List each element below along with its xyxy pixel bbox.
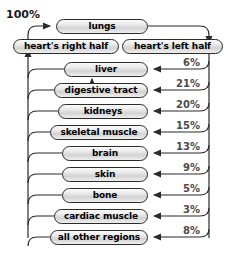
bone-return xyxy=(28,195,62,204)
percent-liver: 6% xyxy=(140,57,200,68)
brain-return xyxy=(28,153,62,162)
node-all-other-regions[interactable]: all other regions xyxy=(50,230,148,245)
digestive-return xyxy=(28,90,54,99)
node-lungs[interactable]: lungs xyxy=(56,19,148,34)
node-skin[interactable]: skin xyxy=(62,167,148,182)
node-kidneys[interactable]: kidneys xyxy=(58,104,148,119)
node-bone[interactable]: bone xyxy=(62,188,148,203)
node-skeletal-muscle[interactable]: skeletal muscle xyxy=(50,125,148,140)
blood-circulation-diagram: 100% lungs heart's right half heart's le… xyxy=(0,0,236,259)
node-cardiac-muscle[interactable]: cardiac muscle xyxy=(54,209,148,224)
kidneys-return xyxy=(28,111,58,120)
percent-all-other-regions: 8% xyxy=(140,225,200,236)
percent-kidneys: 20% xyxy=(140,99,200,110)
percent-cardiac-muscle: 3% xyxy=(140,204,200,215)
cardiac-muscle-return xyxy=(28,216,54,225)
liver-return xyxy=(28,69,64,78)
all-other-return xyxy=(28,237,50,246)
node-hearts-right-half[interactable]: heart's right half xyxy=(13,39,119,54)
skeletal-muscle-return xyxy=(28,132,50,141)
percent-bone: 5% xyxy=(140,183,200,194)
percent-skeletal-muscle: 15% xyxy=(140,120,200,131)
node-digestive-tract[interactable]: digestive tract xyxy=(54,83,148,98)
percent-brain: 13% xyxy=(140,141,200,152)
node-hearts-left-half[interactable]: heart's left half xyxy=(122,39,223,54)
percent-skin: 9% xyxy=(140,162,200,173)
percent-digestive-tract: 21% xyxy=(140,78,200,89)
node-liver[interactable]: liver xyxy=(64,62,148,77)
node-brain[interactable]: brain xyxy=(62,146,148,161)
skin-return xyxy=(28,174,62,183)
total-output-label: 100% xyxy=(6,8,40,21)
